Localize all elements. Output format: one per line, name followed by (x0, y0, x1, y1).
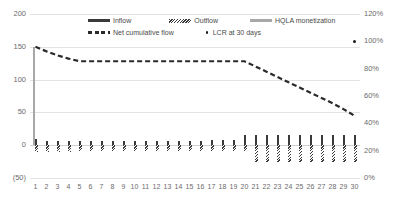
legend-row-primary: Inflow Outflow HQLA monetization (88, 15, 338, 26)
net-cumulative-flow-line (30, 14, 360, 178)
gridline (30, 178, 360, 179)
legend-item-lcr: LCR at 30 days (204, 29, 261, 36)
right-axis-tick: 100% (364, 37, 396, 45)
left-axis-tick: 100 (0, 76, 26, 84)
left-axis-tick: 0 (0, 141, 26, 149)
legend-item-outflow: Outflow (169, 17, 218, 24)
left-axis-tick: (50) (0, 174, 26, 182)
left-axis-tick: 200 (0, 10, 26, 18)
left-axis-tick: 50 (0, 108, 26, 116)
right-axis-tick: 120% (364, 10, 396, 18)
net-flow-swatch-icon (88, 31, 110, 34)
legend-item-inflow: Inflow (88, 17, 131, 24)
right-axis-tick: 0% (364, 174, 396, 182)
right-axis-tick: 80% (364, 65, 396, 73)
legend-label-lcr: LCR at 30 days (213, 29, 261, 36)
net-cumulative-flow-polyline (36, 47, 355, 116)
liquidity-flow-chart: (50)050100150200 0%20%40%60%80%100%120% … (0, 0, 398, 199)
legend-label-hqla: HQLA monetization (275, 17, 335, 24)
legend-label-inflow: Inflow (113, 17, 131, 24)
legend-label-outflow: Outflow (194, 17, 218, 24)
legend-label-net-cumulative-flow: Net cumulative flow (113, 29, 174, 36)
right-axis-tick: 20% (364, 147, 396, 155)
legend-row-secondary: Net cumulative flow LCR at 30 days (88, 27, 338, 38)
outflow-swatch-icon (169, 19, 191, 23)
inflow-swatch-icon (88, 19, 110, 22)
legend-item-hqla: HQLA monetization (250, 17, 335, 24)
hqla-swatch-icon (250, 19, 272, 22)
right-axis-tick: 40% (364, 119, 396, 127)
right-axis-tick: 60% (364, 92, 396, 100)
plot-area (30, 14, 360, 178)
lcr-dot-swatch-icon (204, 30, 210, 36)
chart-legend: Inflow Outflow HQLA monetization Net cum… (88, 15, 338, 38)
left-axis-tick: 150 (0, 43, 26, 51)
legend-item-net-cumulative-flow: Net cumulative flow (88, 29, 174, 36)
day-axis-tick: 30 (349, 183, 361, 191)
